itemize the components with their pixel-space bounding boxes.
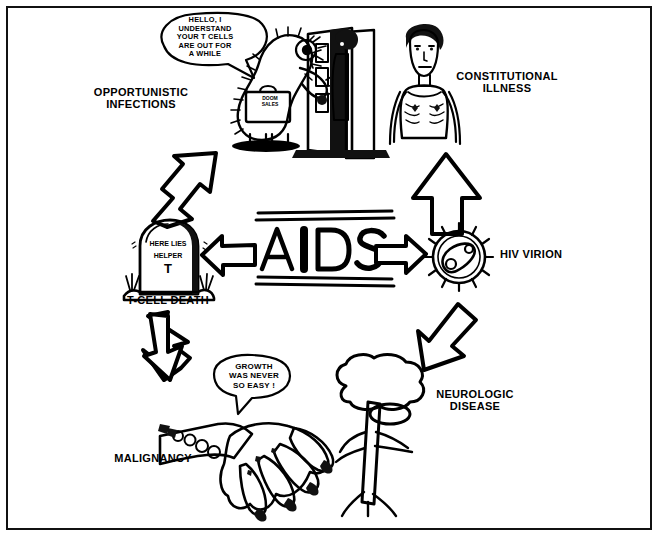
tombstone-line-1: HERE LIES — [132, 240, 204, 248]
diagram-canvas: HELLO, I UNDERSTAND YOUR T CELLS ARE OUT… — [0, 0, 662, 540]
label-constitutional-illness: CONSTITUTIONAL ILLNESS — [432, 70, 582, 94]
malignancy-speech-bubble-text: GROWTH WAS NEVER SO EASY ! — [218, 362, 290, 390]
briefcase-label: DOOM SALES — [250, 96, 290, 107]
label-hiv-virion: HIV VIRION — [500, 248, 610, 260]
node-neurologic-disease — [328, 352, 438, 517]
virus-particle-icon — [424, 222, 494, 292]
brain-spinal-cord-icon — [328, 352, 438, 517]
label-neurologic-disease: NEUROLOGIC DISEASE — [410, 388, 540, 412]
tombstone-line-2: HELPER — [132, 252, 204, 260]
opportunistic-speech-bubble-text: HELLO, I UNDERSTAND YOUR T CELLS ARE OUT… — [156, 16, 254, 59]
label-malignancy: MALIGNANCY — [98, 452, 208, 464]
label-t-cell-death: T-CELL DEATH — [108, 294, 228, 306]
tombstone-line-3: T — [132, 262, 204, 276]
node-hiv-virion — [424, 222, 494, 292]
label-opportunistic-infections: OPPORTUNISTIC INFECTIONS — [78, 86, 204, 110]
